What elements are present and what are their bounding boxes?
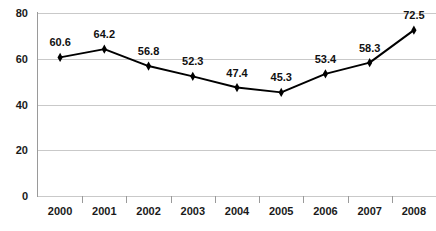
data-point-marker <box>411 26 416 35</box>
x-axis-tick <box>392 196 393 203</box>
x-axis-tick-label: 2003 <box>181 206 205 217</box>
x-axis-tick <box>171 196 172 203</box>
line-chart: 020406080 60.664.256.852.347.445.353.458… <box>0 0 436 231</box>
data-point-label: 45.3 <box>271 72 292 83</box>
x-axis-tick <box>259 196 260 203</box>
x-axis-tick-label: 2001 <box>92 206 116 217</box>
x-axis-tick-label: 2000 <box>48 206 72 217</box>
data-point-marker <box>279 88 284 97</box>
data-point-label: 52.3 <box>182 56 203 67</box>
data-point-marker <box>323 69 328 78</box>
data-point-label: 72.5 <box>403 10 424 21</box>
x-axis-tick <box>215 196 216 203</box>
data-point-marker <box>190 72 195 81</box>
x-axis-tick-label: 2007 <box>357 206 381 217</box>
y-axis-tick-label: 20 <box>0 145 28 156</box>
y-axis-labels: 020406080 <box>0 0 28 231</box>
data-point-marker <box>234 83 239 92</box>
x-axis-tick <box>303 196 304 203</box>
x-axis-tick-label: 2002 <box>136 206 160 217</box>
data-point-label: 58.3 <box>359 43 380 54</box>
data-point-label: 47.4 <box>226 68 247 79</box>
x-axis-tick-label: 2005 <box>269 206 293 217</box>
data-series-line <box>38 13 436 196</box>
data-point-label: 56.8 <box>138 46 159 57</box>
x-axis-labels: 200020012002200320042005200620072008 <box>38 206 436 226</box>
data-point-marker <box>58 53 63 62</box>
x-axis-tick-label: 2006 <box>313 206 337 217</box>
y-axis-tick-label: 40 <box>0 99 28 110</box>
data-point-label: 60.6 <box>49 37 70 48</box>
x-axis-tick <box>82 196 83 203</box>
data-point-label: 53.4 <box>315 54 336 65</box>
data-point-marker <box>102 45 107 54</box>
x-axis-tick-label: 2004 <box>225 206 249 217</box>
data-point-marker <box>146 61 151 70</box>
data-point-marker <box>367 58 372 67</box>
x-axis-ticks <box>38 196 436 204</box>
y-axis-tick-label: 80 <box>0 8 28 19</box>
data-point-label: 64.2 <box>94 29 115 40</box>
x-axis-tick-label: 2008 <box>402 206 426 217</box>
y-axis-tick-label: 0 <box>0 191 28 202</box>
x-axis-tick <box>348 196 349 203</box>
plot-area: 60.664.256.852.347.445.353.458.372.5 <box>38 13 436 196</box>
x-axis-tick <box>126 196 127 203</box>
y-axis-tick-label: 60 <box>0 53 28 64</box>
